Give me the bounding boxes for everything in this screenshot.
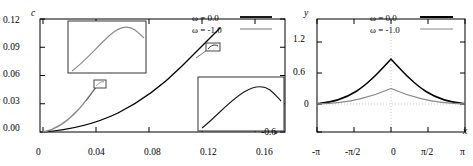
figure-container: c s 0.12 0.09 0.06 0.03 0.00 0 0.04 0.08… — [0, 0, 473, 166]
right-ytick--0.6: -0.6 — [261, 127, 276, 137]
zoom-marker-box-black — [206, 43, 220, 51]
lower-right-inset — [198, 77, 284, 131]
right-plot-panel: y x 1.2 0.6 0 -0.6 -π -π/2 0 π/2 π ω = 0… — [290, 0, 473, 166]
upper-left-inset — [68, 21, 146, 73]
lower-inset-frame — [198, 77, 284, 131]
left-curve-omega-m1 — [43, 84, 99, 132]
right-curve-omega-m1 — [317, 89, 465, 104]
left-plot-svg — [0, 0, 290, 166]
zoom-marker-box-gray — [94, 80, 106, 88]
right-plot-svg — [290, 0, 473, 166]
left-plot-panel: c s 0.12 0.09 0.06 0.03 0.00 0 0.04 0.08… — [0, 0, 290, 166]
